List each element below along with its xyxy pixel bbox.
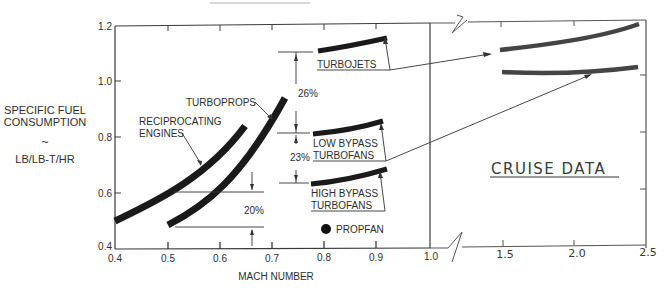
label-reciprocating-line1: RECIPROCATING xyxy=(139,116,222,127)
svg-text:0.4: 0.4 xyxy=(108,253,122,264)
label-turbojets: TURBOJETS xyxy=(317,59,377,70)
series-low-bypass-cruise xyxy=(502,67,638,73)
sfc-vs-mach-chart: SPECIFIC FUEL CONSUMPTION ~ LB/LB-T/HR 1… xyxy=(0,0,671,298)
svg-text:0.8: 0.8 xyxy=(98,132,112,143)
svg-text:1.2: 1.2 xyxy=(98,21,112,32)
x-tick-labels-left: 0.4 0.5 0.6 0.7 0.8 0.9 1.0 xyxy=(108,251,438,264)
y-label-tilde: ~ xyxy=(41,135,48,149)
series-low-bypass-turbofans xyxy=(313,121,383,134)
annotation-23-percent: 23% xyxy=(290,152,310,163)
x-tick-labels-right: 1.5 2.0 2.5 xyxy=(496,246,657,261)
cruise-data-label: CRUISE DATA xyxy=(490,160,619,178)
y-axis-label: SPECIFIC FUEL CONSUMPTION ~ LB/LB-T/HR xyxy=(4,104,87,165)
label-low-bypass-line2: TURBOFANS xyxy=(313,150,374,161)
svg-text:0.4: 0.4 xyxy=(98,241,112,252)
annotation-20-percent: 20% xyxy=(244,205,264,216)
series-reciprocating-engines xyxy=(115,126,245,221)
series-turbojets xyxy=(318,38,387,51)
svg-text:1.0: 1.0 xyxy=(424,251,438,262)
svg-text:1.0: 1.0 xyxy=(98,76,112,87)
svg-text:0.6: 0.6 xyxy=(98,188,112,199)
svg-text:0.6: 0.6 xyxy=(213,253,227,264)
svg-text:1.5: 1.5 xyxy=(496,248,514,261)
x-axis-label: MACH NUMBER xyxy=(238,271,314,282)
label-high-bypass-line2: TURBOFANS xyxy=(311,200,372,211)
y-label-line1: SPECIFIC FUEL xyxy=(4,104,86,116)
label-high-bypass-line1: HIGH BYPASS xyxy=(311,188,378,199)
svg-text:CRUISE DATA: CRUISE DATA xyxy=(491,160,606,178)
series-turbojets-cruise xyxy=(500,24,639,50)
y-label-units: LB/LB-T/HR xyxy=(15,153,74,165)
svg-text:0.5: 0.5 xyxy=(161,253,175,264)
label-propfan: PROPFAN xyxy=(336,224,384,235)
label-reciprocating-line2: ENGINES xyxy=(139,128,184,139)
axis-break-top-icon xyxy=(452,15,467,33)
propfan-point xyxy=(321,224,331,234)
label-turboprops: TURBOPROPS xyxy=(186,97,256,108)
axis-break-bottom-icon xyxy=(448,232,462,262)
svg-text:0.9: 0.9 xyxy=(369,252,383,263)
svg-text:2.0: 2.0 xyxy=(568,247,586,260)
y-label-line2: CONSUMPTION xyxy=(4,116,87,128)
annotation-26-percent: 26% xyxy=(298,88,318,99)
svg-text:0.7: 0.7 xyxy=(265,253,279,264)
y-tick-labels: 1.2 1.0 0.8 0.6 0.4 xyxy=(98,21,112,252)
svg-text:2.5: 2.5 xyxy=(639,246,657,259)
label-low-bypass-line1: LOW BYPASS xyxy=(313,138,378,149)
svg-text:0.8: 0.8 xyxy=(317,252,331,263)
series-high-bypass-turbofans xyxy=(311,169,387,184)
right-panel-axes xyxy=(430,15,646,262)
